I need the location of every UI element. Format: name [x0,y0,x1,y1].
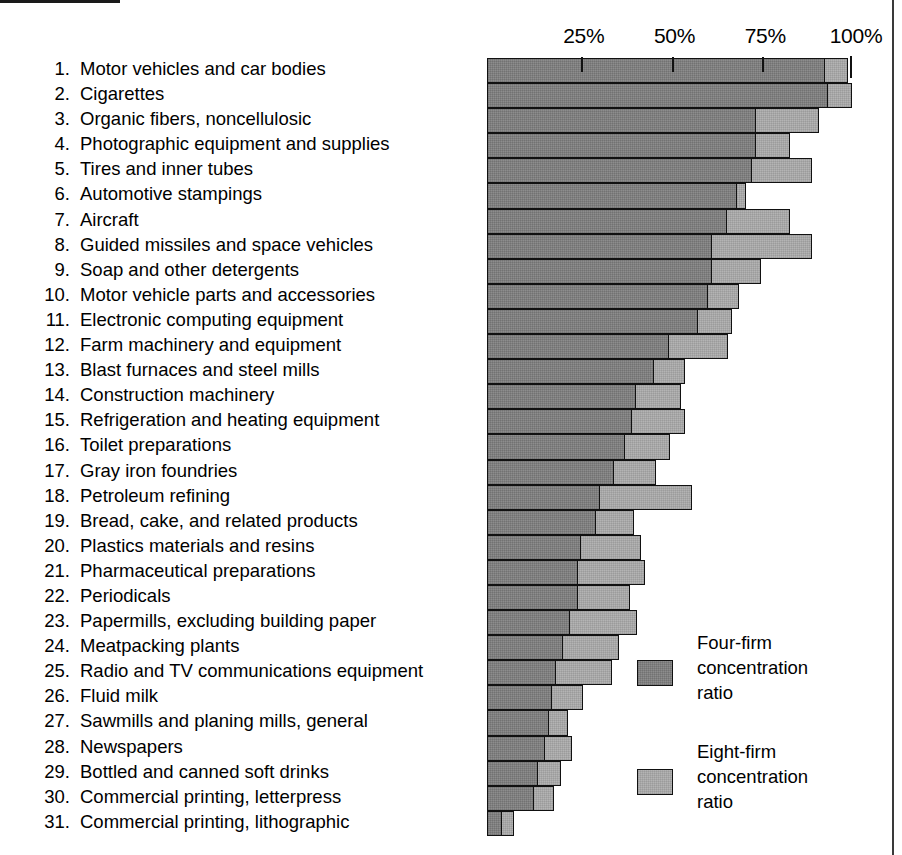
bar-four-firm [487,158,752,183]
bar-four-firm [487,183,737,208]
industry-name: Soap and other detergents [80,259,482,281]
bar-eight-firm [652,359,684,384]
industry-name: Construction machinery [80,384,482,406]
industry-label-row: 19.Bread, cake, and related products [32,510,482,535]
industry-name: Refrigeration and heating equipment [80,409,482,431]
industry-name: Papermills, excluding building paper [80,610,482,632]
legend-label-line: concentration [697,764,887,789]
bar-row [487,133,887,158]
industry-rank: 27. [32,710,80,732]
industry-name: Farm machinery and equipment [80,334,482,356]
bar-eight-firm [634,384,681,409]
industry-label-row: 3.Organic fibers, noncellulosic [32,108,482,133]
industry-name: Electronic computing equipment [80,309,482,331]
bar-row [487,510,887,535]
bar-row [487,234,887,259]
industry-label-row: 21.Pharmaceutical preparations [32,560,482,585]
industry-rank: 2. [32,83,80,105]
bar-row [487,535,887,560]
bar-row [487,359,887,384]
concentration-ratio-chart-page: 25%50%75%100% 1.Motor vehicles and car b… [0,0,902,855]
industry-rank: 30. [32,786,80,808]
bar-four-firm [487,209,727,234]
industry-label-row: 14.Construction machinery [32,384,482,409]
industry-name: Bottled and canned soft drinks [80,761,482,783]
industry-rank: 18. [32,485,80,507]
bar-eight-firm [543,736,572,761]
industry-label-row: 11.Electronic computing equipment [32,309,482,334]
axis-tick-labels: 25%50%75%100% [490,24,890,52]
industry-name: Guided missiles and space vehicles [80,234,482,256]
bar-eight-firm [536,761,561,786]
bar-four-firm [487,309,698,334]
legend-entry-eight: Eight-firmconcentrationratio [637,739,887,814]
industry-label-row: 27.Sawmills and planing mills, general [32,710,482,735]
bar-four-firm [487,710,549,735]
bar-four-firm [487,560,578,585]
bar-four-firm [487,460,614,485]
bar-four-firm [487,510,596,535]
bar-four-firm [487,234,712,259]
bar-four-firm [487,610,570,635]
bar-eight-firm [547,710,568,735]
industry-name: Automotive stampings [80,183,482,205]
industry-label-row: 5.Tires and inner tubes [32,158,482,183]
axis-tick-label-50: 50% [654,24,695,48]
industry-label-list: 1.Motor vehicles and car bodies2.Cigaret… [32,58,482,836]
industry-rank: 13. [32,359,80,381]
bar-four-firm [487,83,828,108]
industry-label-row: 31.Commercial printing, lithographic [32,811,482,836]
bar-eight-firm [707,284,739,309]
industry-rank: 12. [32,334,80,356]
bar-eight-firm [754,108,819,133]
legend-swatch-eight [637,769,673,795]
industry-rank: 9. [32,259,80,281]
industry-name: Radio and TV communications equipment [80,660,482,682]
industry-label-row: 26.Fluid milk [32,685,482,710]
bar-eight-firm [754,133,790,158]
bar-eight-firm [696,309,732,334]
industry-rank: 10. [32,284,80,306]
bar-eight-firm [576,585,630,610]
industry-label-row: 13.Blast furnaces and steel mills [32,359,482,384]
industry-rank: 22. [32,585,80,607]
bar-eight-firm [598,485,692,510]
bar-row [487,83,887,108]
industry-label-row: 30.Commercial printing, letterpress [32,786,482,811]
legend-swatch-four [637,660,673,686]
industry-name: Bread, cake, and related products [80,510,482,532]
bar-eight-firm [551,685,583,710]
bar-four-firm [487,736,545,761]
industry-rank: 3. [32,108,80,130]
bar-eight-firm [623,434,670,459]
industry-label-row: 18.Petroleum refining [32,485,482,510]
bar-row [487,158,887,183]
legend-entry-four: Four-firmconcentrationratio [637,630,887,705]
bar-eight-firm [710,259,760,284]
industry-label-row: 1.Motor vehicles and car bodies [32,58,482,83]
industry-rank: 26. [32,685,80,707]
legend-label-line: concentration [697,655,887,680]
industry-rank: 11. [32,309,80,331]
industry-label-row: 16.Toilet preparations [32,434,482,459]
industry-rank: 29. [32,761,80,783]
bar-four-firm [487,434,625,459]
industry-rank: 16. [32,434,80,456]
industry-label-row: 4.Photographic equipment and supplies [32,133,482,158]
bar-eight-firm [750,158,811,183]
industry-label-row: 22.Periodicals [32,585,482,610]
bar-four-firm [487,811,502,836]
bar-four-firm [487,284,708,309]
industry-name: Meatpacking plants [80,635,482,657]
bar-row [487,485,887,510]
bar-row [487,309,887,334]
bar-four-firm [487,359,654,384]
bar-four-firm [487,660,556,685]
axis-tick-100-marker [850,56,852,78]
industry-name: Motor vehicle parts and accessories [80,284,482,306]
industry-rank: 28. [32,736,80,758]
industry-rank: 23. [32,610,80,632]
bar-row [487,409,887,434]
axis-tick-label-100: 100% [830,24,883,48]
bar-four-firm [487,585,578,610]
